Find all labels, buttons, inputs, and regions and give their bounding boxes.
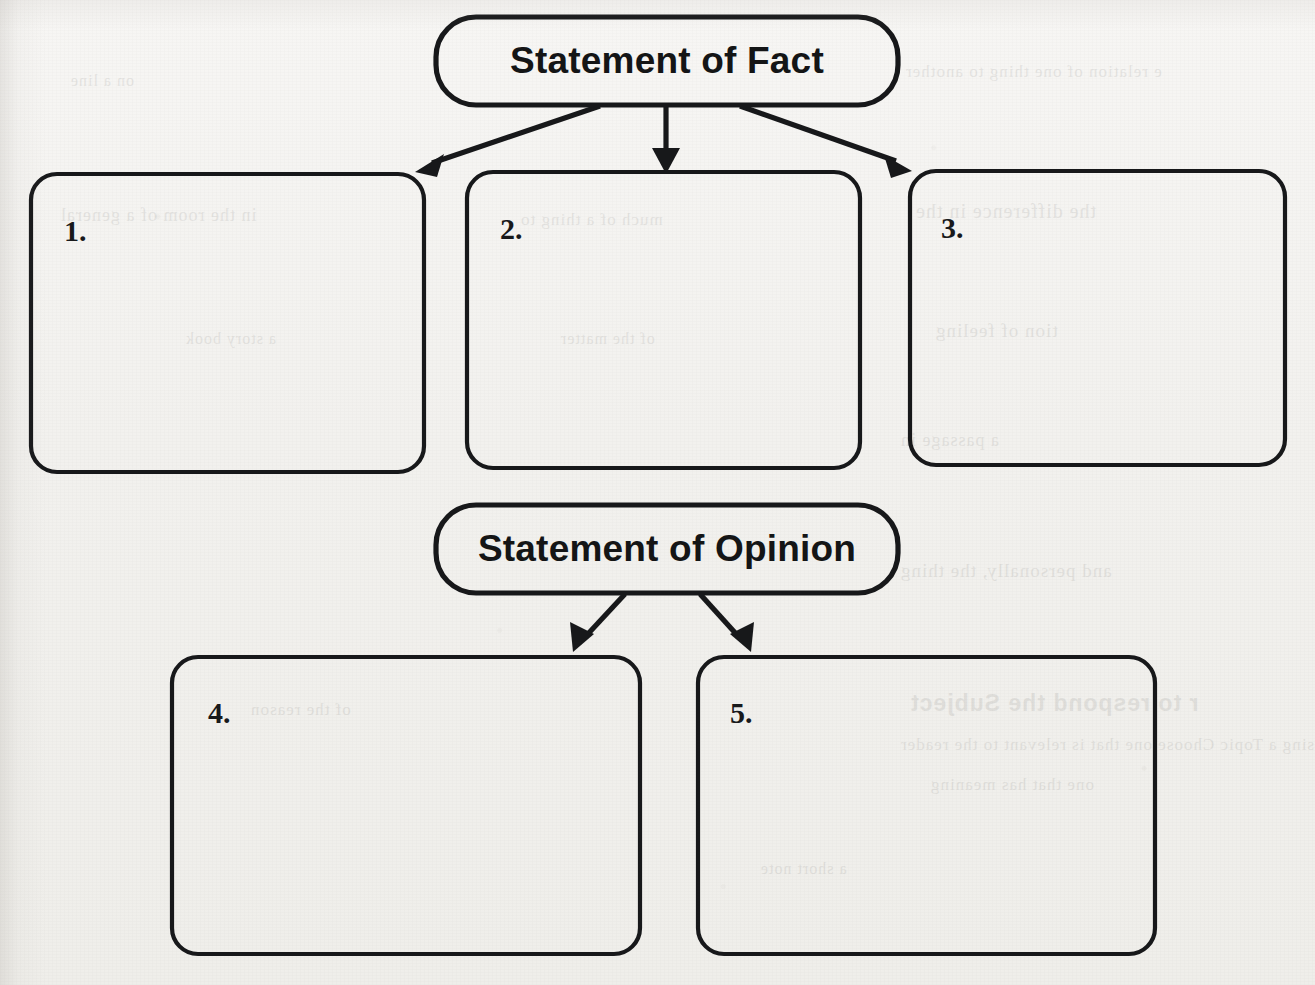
connector-opinion-to-box-5 <box>700 594 754 652</box>
connector-fact-to-box-1 <box>415 106 600 177</box>
connector-fact-to-box-2 <box>652 106 680 174</box>
answer-box-2[interactable] <box>467 172 860 468</box>
header-label-statement-of-fact: Statement of Fact <box>510 40 824 82</box>
fact-opinion-flowchart <box>0 0 1315 985</box>
answer-box-4[interactable] <box>172 657 640 954</box>
answer-box-3-number: 3. <box>941 213 964 243</box>
answer-box-2-number: 2. <box>500 214 523 244</box>
connector-opinion-to-box-4 <box>570 594 625 652</box>
answer-box-5[interactable] <box>698 657 1155 954</box>
worksheet-page: e relation of one thing to another the d… <box>0 0 1315 985</box>
answer-box-1[interactable] <box>31 174 424 472</box>
answer-box-1-number: 1. <box>64 216 87 246</box>
connector-fact-to-box-3 <box>740 106 912 178</box>
answer-box-4-number: 4. <box>208 698 231 728</box>
answer-box-5-number: 5. <box>730 698 753 728</box>
answer-box-3[interactable] <box>910 171 1285 465</box>
header-label-statement-of-opinion: Statement of Opinion <box>478 528 856 570</box>
